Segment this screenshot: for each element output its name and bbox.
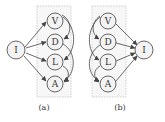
panel-b: V D L A I (b) xyxy=(89,6,153,112)
node-a-L: L xyxy=(47,54,63,70)
node-label: I xyxy=(14,45,18,55)
node-a-I: I xyxy=(7,41,25,59)
node-label: I xyxy=(142,45,146,55)
node-b-I: I xyxy=(135,41,153,59)
node-label: A xyxy=(51,79,59,89)
panel-a: I V D L A (a) xyxy=(7,6,74,112)
node-a-V: V xyxy=(47,13,63,29)
node-b-D: D xyxy=(100,34,116,50)
caption-b: (b) xyxy=(114,103,125,112)
node-b-V: V xyxy=(100,13,116,29)
node-b-L: L xyxy=(100,54,116,70)
node-label: V xyxy=(51,16,59,26)
node-a-A: A xyxy=(47,76,63,92)
node-label: L xyxy=(52,57,58,67)
node-b-A: A xyxy=(100,76,116,92)
node-label: L xyxy=(105,57,111,67)
node-label: D xyxy=(51,37,58,47)
node-label: V xyxy=(104,16,112,26)
diagram-canvas: I V D L A (a) xyxy=(0,0,165,122)
node-a-D: D xyxy=(47,34,63,50)
caption-a: (a) xyxy=(38,103,49,112)
node-label: A xyxy=(104,79,112,89)
node-label: D xyxy=(104,37,111,47)
